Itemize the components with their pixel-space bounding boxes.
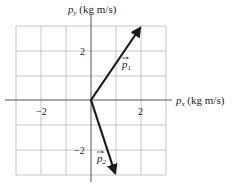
vector-p1-label: p1 <box>121 57 131 72</box>
vector-p2-label: p2 <box>96 151 107 166</box>
svg-text:p2: p2 <box>96 152 107 166</box>
x-axis-label: px (kg m/s) <box>175 94 225 108</box>
x-tick-2: 2 <box>138 106 143 117</box>
y-axis-label: py (kg m/s) <box>67 3 117 17</box>
svg-text:p1: p1 <box>121 58 131 72</box>
momentum-diagram: py (kg m/s) px (kg m/s) −2 2 2 −2 p1 p2 <box>0 0 235 184</box>
x-tick-neg2: −2 <box>36 106 47 117</box>
y-tick-2: 2 <box>80 46 85 57</box>
y-tick-neg2: −2 <box>74 145 85 156</box>
vector-p1-arrow <box>91 28 140 100</box>
